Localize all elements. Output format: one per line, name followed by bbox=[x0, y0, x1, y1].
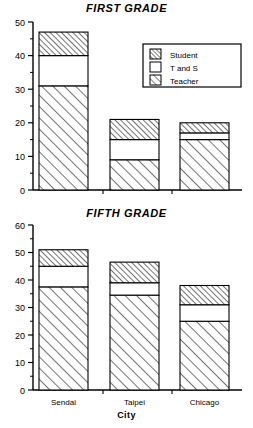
legend-swatch-student bbox=[150, 49, 161, 59]
ytick-label: 50 bbox=[15, 18, 25, 28]
ytick-label: 50 bbox=[15, 248, 25, 258]
ytick-label: 40 bbox=[15, 276, 25, 286]
fifth-grade-category-labels: Sendai Taipei Chicago bbox=[51, 398, 220, 407]
legend-label-t-and-s: T and S bbox=[170, 64, 198, 73]
bar-fifth-chicago bbox=[180, 286, 229, 391]
ytick-label: 20 bbox=[15, 331, 25, 341]
stacked-bar-chart-figure: FIRST GRADE bbox=[0, 0, 253, 428]
ytick-label: 0 bbox=[20, 186, 25, 196]
category-label-taipei: Taipei bbox=[124, 398, 145, 407]
legend-label-student: Student bbox=[170, 51, 198, 60]
legend-label-teacher: Teacher bbox=[170, 77, 199, 86]
ytick-label: 30 bbox=[15, 303, 25, 313]
category-label-sendai: Sendai bbox=[51, 398, 76, 407]
bar-first-sendai bbox=[39, 32, 88, 190]
bar-fifth-taipei bbox=[110, 262, 159, 390]
xaxis-title-city: City bbox=[0, 410, 253, 420]
legend-swatch-t-and-s bbox=[150, 62, 161, 72]
fifth-grade-ytick-labels: 0 10 20 30 40 50 60 bbox=[15, 221, 25, 396]
ytick-label: 20 bbox=[15, 118, 25, 128]
legend: Student T and S Teacher bbox=[143, 44, 241, 87]
ytick-label: 10 bbox=[15, 358, 25, 368]
fifth-grade-plot: 0 10 20 30 40 50 60 bbox=[0, 205, 253, 428]
bar-first-taipei bbox=[110, 119, 159, 190]
legend-swatch-teacher bbox=[150, 75, 161, 85]
ytick-label: 0 bbox=[20, 386, 25, 396]
panel-first-grade: FIRST GRADE bbox=[0, 0, 253, 212]
ytick-label: 60 bbox=[15, 221, 25, 231]
bar-fifth-sendai bbox=[39, 250, 88, 390]
bar-first-chicago bbox=[180, 123, 229, 190]
category-label-chicago: Chicago bbox=[190, 398, 220, 407]
ytick-label: 30 bbox=[15, 85, 25, 95]
first-grade-plot: 0 10 20 30 40 50 bbox=[0, 0, 253, 212]
first-grade-ytick-labels: 0 10 20 30 40 50 bbox=[15, 18, 25, 196]
ytick-label: 10 bbox=[15, 152, 25, 162]
ytick-label: 40 bbox=[15, 51, 25, 61]
panel-fifth-grade: FIFTH GRADE bbox=[0, 205, 253, 428]
